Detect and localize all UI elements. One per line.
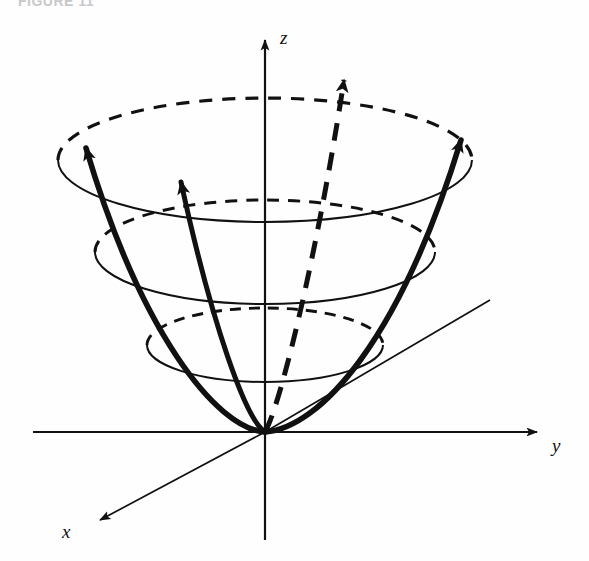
x-axis-negative-line <box>100 432 265 520</box>
z-axis-label: z <box>279 27 288 48</box>
x-axis: x <box>61 300 490 542</box>
figure-container: FIGURE 11 z y x <box>0 0 589 561</box>
z-axis: z <box>265 27 288 540</box>
x-axis-label: x <box>61 521 71 542</box>
y-axis: y <box>33 432 561 456</box>
parabola-branch-front-right <box>265 140 461 432</box>
paraboloid-diagram: z y x <box>0 0 589 561</box>
y-axis-label: y <box>550 435 561 456</box>
x-axis-positive-line <box>265 300 490 432</box>
